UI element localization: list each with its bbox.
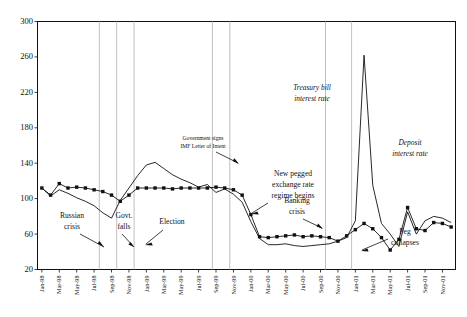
data-point-marker bbox=[92, 188, 95, 191]
election-arrow bbox=[146, 230, 163, 244]
x-tick-label: Sep-98 bbox=[108, 276, 115, 294]
russian-crisis-arrowhead bbox=[98, 241, 104, 247]
x-tick-label: Mar-99 bbox=[160, 276, 167, 294]
data-point-marker bbox=[310, 234, 313, 237]
data-point-marker bbox=[127, 193, 130, 196]
data-point-marker bbox=[388, 248, 391, 251]
y-tick-100: 100 bbox=[20, 193, 33, 203]
data-point-marker bbox=[162, 186, 165, 189]
deposit-rate-label-line2: interest rate bbox=[392, 149, 428, 158]
x-tick-label: Jul-99 bbox=[195, 276, 202, 291]
x-tick-label: Nov-01 bbox=[439, 276, 446, 295]
x-tick-label: Sep-00 bbox=[317, 276, 324, 294]
x-tick-label: May-01 bbox=[386, 276, 393, 296]
data-point-marker bbox=[66, 186, 69, 189]
data-point-marker bbox=[328, 236, 331, 239]
x-tick-label: Jan-00 bbox=[247, 276, 254, 293]
annotation-peg-collapses: Peg collapses bbox=[361, 227, 419, 251]
series-label-deposit-rate: Deposit interest rate bbox=[392, 138, 428, 158]
banking-crisis-line1: Banking bbox=[284, 196, 310, 205]
data-point-marker bbox=[275, 235, 278, 238]
x-tick-label: Mar-98 bbox=[55, 276, 62, 294]
data-point-marker bbox=[136, 186, 139, 189]
deposit-rate-label-line1: Deposit bbox=[398, 138, 423, 147]
annotation-govt-falls: Govt. falls bbox=[115, 211, 134, 247]
data-point-marker bbox=[232, 188, 235, 191]
x-tick-label: May-00 bbox=[282, 276, 289, 296]
series-path bbox=[42, 184, 451, 250]
peg-collapses-line1: Peg bbox=[399, 227, 411, 236]
annotation-pegged-regime: New pegged exchange rate regime begins bbox=[251, 169, 315, 214]
y-tick-60: 60 bbox=[25, 229, 34, 239]
data-point-marker bbox=[267, 236, 270, 239]
x-tick-label: Jul-01 bbox=[404, 276, 411, 291]
russian-crisis-line2: crisis bbox=[64, 222, 80, 231]
x-tick-label: Mar-01 bbox=[369, 276, 376, 294]
data-point-marker bbox=[58, 182, 61, 185]
govt-falls-arrowhead bbox=[128, 242, 134, 247]
series-layer bbox=[40, 55, 453, 252]
data-point-marker bbox=[423, 229, 426, 232]
data-point-marker bbox=[432, 221, 435, 224]
x-axis: Jan-98Mar-98May-98Jul-98Sep-98Nov-98Jan-… bbox=[38, 270, 446, 296]
x-tick-label: Sep-01 bbox=[421, 276, 428, 294]
imf-letter-line2: IMF Letter of Intent bbox=[180, 143, 226, 149]
data-point-marker bbox=[75, 185, 78, 188]
data-point-marker bbox=[206, 186, 209, 189]
data-point-marker bbox=[110, 193, 113, 196]
data-point-marker bbox=[301, 235, 304, 238]
data-point-marker bbox=[354, 228, 357, 231]
x-tick-label: Nov-00 bbox=[334, 276, 341, 295]
data-point-marker bbox=[362, 222, 365, 225]
data-point-marker bbox=[441, 222, 444, 225]
x-tick-label: May-99 bbox=[177, 276, 184, 296]
data-point-marker bbox=[101, 190, 104, 193]
data-point-marker bbox=[214, 185, 217, 188]
annotation-election: Election bbox=[145, 217, 185, 245]
data-point-marker bbox=[406, 206, 409, 209]
election-line1: Election bbox=[159, 217, 185, 226]
data-point-marker bbox=[345, 234, 348, 237]
data-point-marker bbox=[449, 225, 452, 228]
pegged-regime-arrow bbox=[252, 203, 268, 213]
y-tick-220: 220 bbox=[20, 87, 33, 97]
data-point-marker bbox=[145, 186, 148, 189]
pegged-regime-line1: New pegged bbox=[274, 169, 312, 178]
y-tick-260: 260 bbox=[20, 51, 33, 61]
plot-frame bbox=[38, 22, 456, 270]
data-point-marker bbox=[188, 186, 191, 189]
x-tick-label: Jan-99 bbox=[143, 276, 150, 293]
x-tick-label: Nov-98 bbox=[125, 276, 132, 295]
data-point-marker bbox=[223, 186, 226, 189]
x-tick-label: Jul-00 bbox=[299, 276, 306, 291]
y-tick-140: 140 bbox=[20, 158, 33, 168]
data-point-marker bbox=[284, 234, 287, 237]
annotation-banking-crisis: Banking crisis bbox=[284, 196, 323, 229]
banking-crisis-line2: crisis bbox=[289, 207, 305, 216]
data-point-marker bbox=[293, 233, 296, 236]
data-point-marker bbox=[119, 200, 122, 203]
x-tick-label: May-98 bbox=[73, 276, 80, 296]
peg-collapses-line2: collapses bbox=[391, 238, 419, 247]
treasury-bill-label-line1: Treasury bill bbox=[293, 83, 331, 92]
data-point-marker bbox=[240, 193, 243, 196]
data-point-marker bbox=[258, 235, 261, 238]
pegged-regime-line2: exchange rate bbox=[272, 180, 315, 189]
y-tick-180: 180 bbox=[20, 122, 33, 132]
govt-falls-line1: Govt. bbox=[115, 211, 132, 220]
x-tick-label: Jul-98 bbox=[90, 276, 97, 291]
series-path bbox=[42, 55, 451, 246]
x-tick-label: Nov-99 bbox=[230, 276, 237, 295]
annotation-russian-crisis: Russian crisis bbox=[60, 211, 104, 247]
y-tick-20: 20 bbox=[25, 264, 34, 274]
data-point-marker bbox=[249, 213, 252, 216]
x-tick-label: Jan-98 bbox=[38, 276, 45, 293]
data-point-marker bbox=[171, 187, 174, 190]
data-point-marker bbox=[40, 186, 43, 189]
data-point-marker bbox=[371, 227, 374, 230]
imf-letter-line1: Government signs bbox=[183, 135, 224, 141]
x-tick-label: Sep-99 bbox=[212, 276, 219, 294]
treasury-bill-label-line2: interest rate bbox=[294, 94, 330, 103]
data-point-marker bbox=[49, 193, 52, 196]
russian-crisis-line1: Russian bbox=[60, 211, 84, 220]
